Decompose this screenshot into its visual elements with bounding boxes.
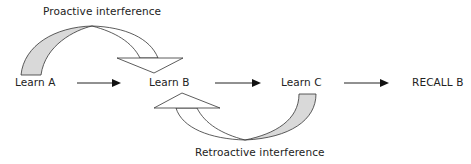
node-learn-a: Learn A [15,76,56,88]
retroactive-interference-label: Retroactive interference [195,146,325,158]
node-learn-c: Learn C [281,76,322,88]
arrow-a-to-b [77,79,121,87]
diagram-canvas [0,0,471,164]
retroactive-interference-arrow [154,93,316,140]
arrow-b-to-c [215,79,261,87]
proactive-interference-label: Proactive interference [43,5,161,17]
proactive-interference-arrow [21,26,183,75]
arrow-c-to-recall [344,79,389,87]
node-learn-b: Learn B [149,76,190,88]
node-recall-b: RECALL B [412,76,464,88]
